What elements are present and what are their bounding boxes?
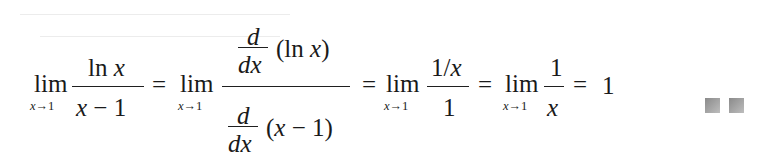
lim-subscript: x→1 [503,100,527,113]
lim-subscript: x→1 [30,100,54,113]
derivative-d: d [247,24,260,49]
end-of-example-square-icon [705,98,720,113]
derivative-dx: dx [238,52,262,77]
lim-operator: lim [386,71,419,96]
right-arrow-icon: → [390,99,403,113]
equals-sign: = [478,72,492,97]
right-arrow-icon: → [509,99,522,113]
numerator: 1/x [431,55,462,80]
derivative-d: d [237,103,250,128]
fraction-bar [544,86,564,87]
equals-sign: = [362,72,376,97]
result: 1 [602,73,615,98]
denominator: x [547,95,558,120]
fraction-bar [427,86,469,87]
math-equation: lim x→1 ln x x − 1 = lim x→1 d dx (ln x)… [0,0,757,158]
lim-operator: lim [505,71,538,96]
derivative-argument: (ln x) [276,36,329,61]
lim-operator: lim [34,71,67,96]
equals-sign: = [573,72,587,97]
right-arrow-icon: → [184,99,197,113]
denominator: x − 1 [76,95,126,120]
lim-operator: lim [180,71,213,96]
numerator: 1 [550,55,563,80]
derivative-bar [228,126,258,127]
derivative-dx: dx [228,131,252,156]
lim-subscript: x→1 [178,100,202,113]
denominator: 1 [443,95,456,120]
right-arrow-icon: → [36,99,49,113]
derivative-argument: (x − 1) [266,115,333,140]
lim-subscript: x→1 [384,100,408,113]
subscript-val: 1 [48,99,54,113]
fraction-bar [72,86,144,87]
equals-sign: = [152,72,166,97]
derivative-bar [238,47,268,48]
end-of-example-square-icon [729,98,744,113]
numerator: ln x [88,55,125,80]
fraction-bar [222,86,350,87]
